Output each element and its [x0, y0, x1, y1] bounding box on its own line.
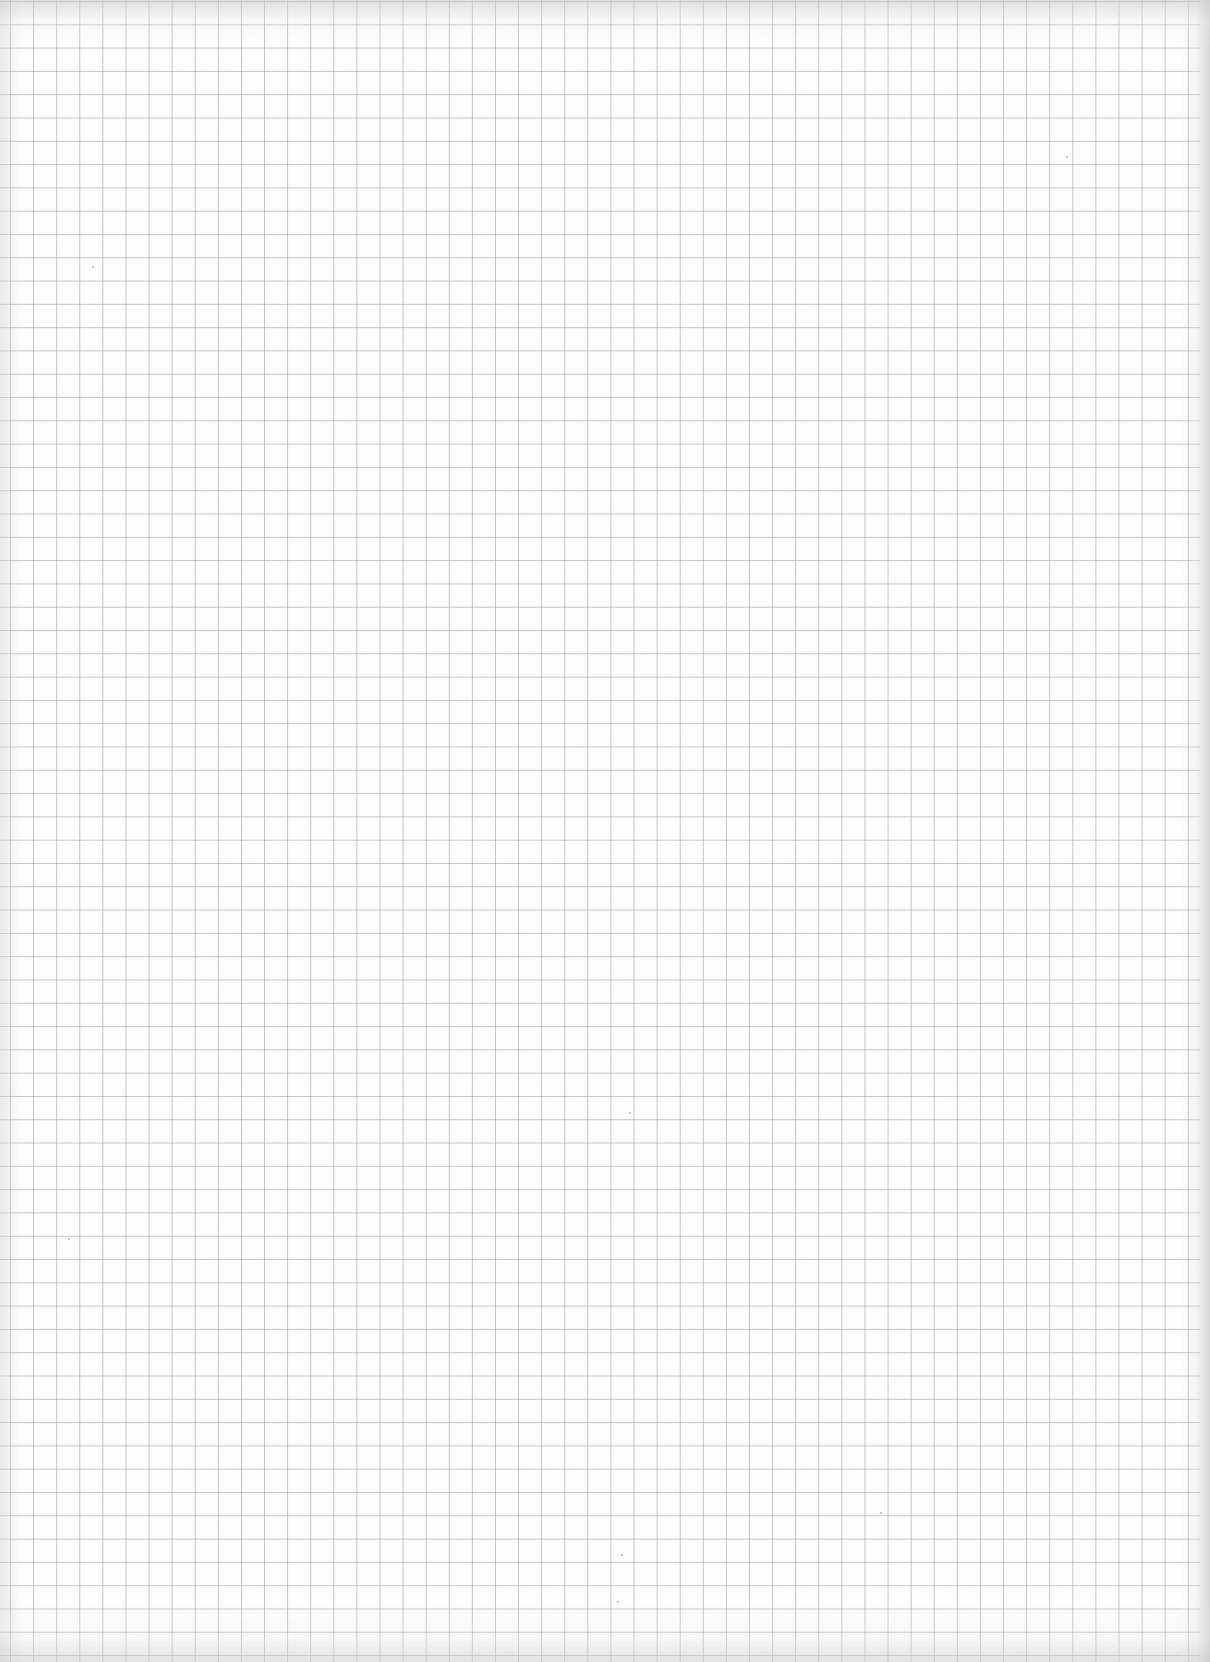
graph-paper-sheet	[0, 0, 1210, 1662]
scan-speck	[68, 1238, 70, 1240]
scan-speck	[629, 1112, 631, 1114]
scan-speck	[617, 1601, 619, 1603]
scan-speck	[1066, 156, 1068, 158]
scan-speck	[621, 1554, 623, 1556]
scan-speck	[880, 1512, 882, 1514]
scan-speck	[92, 266, 94, 268]
grid-lines	[0, 0, 1200, 1662]
